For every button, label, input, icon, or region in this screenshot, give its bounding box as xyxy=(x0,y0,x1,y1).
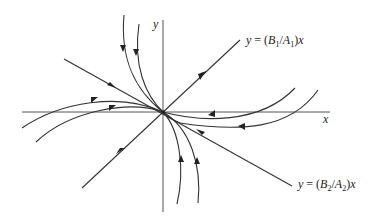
trajectory xyxy=(22,101,163,128)
phase-portrait: y x y = (B1/A1)x y = (B2/A2)x xyxy=(0,0,380,220)
eigenline-2-label: y = (B2/A2)x xyxy=(297,177,356,193)
arrow-icon xyxy=(238,123,245,130)
origin-point xyxy=(161,110,165,114)
trajectory xyxy=(180,90,318,127)
arrow-icon xyxy=(208,110,215,117)
x-axis-label: x xyxy=(322,112,329,126)
y-axis-label: y xyxy=(152,17,159,31)
trajectory xyxy=(163,112,181,204)
arrow-icon xyxy=(107,82,116,88)
trajectory xyxy=(137,24,163,112)
arrow-icon xyxy=(196,129,205,135)
trajectory xyxy=(163,88,295,119)
arrow-icon xyxy=(116,148,125,154)
arrow-icon xyxy=(178,155,184,162)
eigenline-1 xyxy=(82,40,240,188)
eigenline-1-label: y = (B1/A1)x xyxy=(245,33,304,49)
